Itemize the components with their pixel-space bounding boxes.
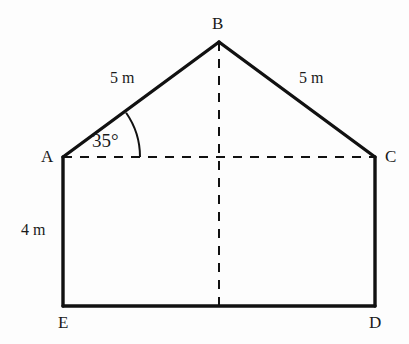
vertex-label-e: E xyxy=(58,314,68,331)
geometry-figure: A B C D E 5 m 5 m 4 m 35° xyxy=(0,0,409,344)
geometry-canvas xyxy=(0,0,409,344)
edge-roof-left-ab xyxy=(63,42,219,157)
measure-label-roof-right: 5 m xyxy=(299,70,323,86)
vertex-label-d: D xyxy=(369,314,381,331)
edge-roof-right-bc xyxy=(219,42,375,157)
vertex-label-a: A xyxy=(41,148,53,165)
vertex-label-b: B xyxy=(212,15,223,32)
vertex-label-c: C xyxy=(385,148,396,165)
angle-arc-35 xyxy=(126,113,140,157)
angle-label-35-degrees: 35° xyxy=(92,131,119,150)
measure-label-roof-left: 5 m xyxy=(110,70,134,86)
measure-label-wall-height: 4 m xyxy=(21,222,45,238)
